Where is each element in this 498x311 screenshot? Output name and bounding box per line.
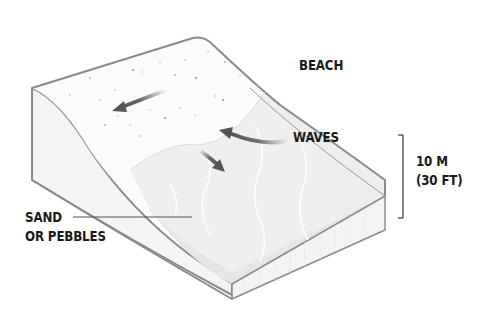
- height-label-line2: (30 FT): [416, 171, 463, 190]
- sand-label-line1: SAND: [25, 208, 106, 227]
- beach-label: BEACH: [299, 56, 343, 74]
- height-label-line1: 10 M: [416, 152, 463, 171]
- sand-label: SAND OR PEBBLES: [25, 208, 106, 246]
- height-bracket: [398, 135, 403, 218]
- height-label: 10 M (30 FT): [416, 152, 463, 190]
- beach-diagram: BEACH WAVES 10 M (30 FT) SAND OR PEBBLES: [0, 0, 498, 311]
- waves-label: WAVES: [293, 128, 339, 146]
- sand-label-line2: OR PEBBLES: [25, 227, 106, 246]
